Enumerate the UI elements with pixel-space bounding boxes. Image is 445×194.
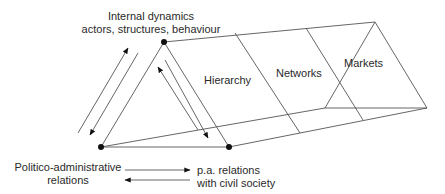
front-triangle-right-edge — [164, 42, 229, 147]
arrow-up-left — [78, 48, 128, 133]
prism-bottom-left-edge — [101, 108, 325, 147]
label-internal-dynamics-line1: Internal dynamics — [68, 10, 234, 23]
label-politico-line2: relations — [10, 174, 126, 187]
arrow-up-inner — [158, 67, 198, 130]
label-markets: Markets — [344, 57, 383, 70]
front-triangle-left-edge — [101, 42, 164, 147]
label-internal-dynamics: Internal dynamics actors, structures, be… — [68, 10, 234, 36]
node-internal-dynamics — [161, 39, 167, 45]
label-politico-administrative: Politico-administrative relations — [10, 161, 126, 187]
prism-bottom-right-edge — [229, 108, 427, 147]
arrow-down-left — [90, 53, 138, 135]
arrow-down-inner — [165, 60, 208, 138]
label-hierarchy: Hierarchy — [204, 74, 251, 87]
label-networks: Networks — [276, 67, 322, 80]
label-pa-civil-society: p.a. relations with civil society — [197, 164, 275, 190]
label-internal-dynamics-line2: actors, structures, behaviour — [68, 23, 234, 36]
label-pa-line2: with civil society — [197, 177, 275, 190]
node-politico-administrative — [98, 144, 104, 150]
label-politico-line1: Politico-administrative — [10, 161, 126, 174]
node-pa-civil-society — [226, 144, 232, 150]
label-pa-line1: p.a. relations — [197, 164, 275, 177]
